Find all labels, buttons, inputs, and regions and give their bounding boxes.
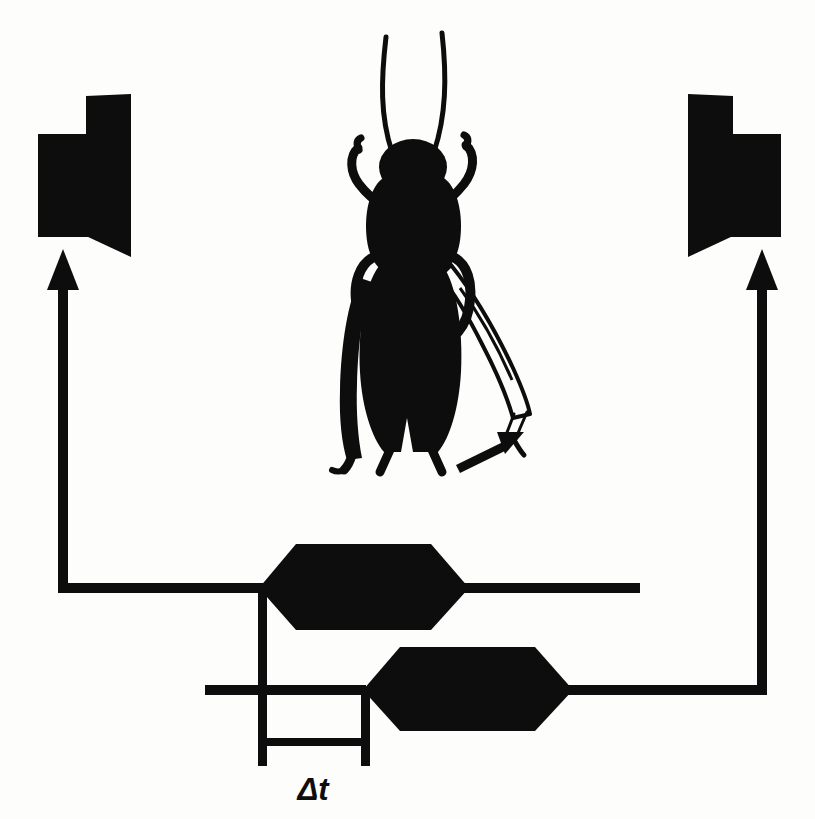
lower-sound-trace <box>205 647 767 731</box>
lower-trace-pulse <box>363 647 573 731</box>
cricket-hindleg-right-tarsus <box>514 440 524 455</box>
left-speaker-body <box>38 134 88 237</box>
right-signal-arrow <box>746 249 778 686</box>
cricket-silhouette <box>332 33 530 473</box>
upper-sound-trace <box>63 544 640 630</box>
cricket-hearing-figure: Δt <box>0 0 815 819</box>
cricket-antenna-left <box>382 37 392 152</box>
upper-trace-baseline-left <box>63 583 263 593</box>
tympanum-pointer-arrow <box>456 432 524 473</box>
cricket-foreleg-right-tip <box>464 135 468 147</box>
lower-trace-baseline-left <box>205 685 366 695</box>
delta-t-bar <box>258 738 370 746</box>
lower-trace-baseline-right <box>568 685 767 695</box>
left-arrow-head <box>47 249 79 290</box>
cricket-abdomen <box>360 266 462 452</box>
right-arrow-head <box>746 249 778 290</box>
cricket-foreleg-left-tip <box>357 138 361 150</box>
right-arrow-shaft <box>757 286 767 686</box>
figure-canvas: Δt <box>0 0 815 819</box>
right-speaker-cone <box>688 94 733 257</box>
cricket-hindleg-left-tarsus <box>332 470 344 472</box>
cricket-antenna-right <box>434 33 445 152</box>
cricket-pronotum <box>366 178 461 271</box>
tympanum-arrow-shaft <box>456 441 509 473</box>
right-speaker-body <box>731 134 781 237</box>
delta-t-dropline-right <box>361 690 370 766</box>
right-loudspeaker <box>688 94 781 257</box>
left-arrow-shaft <box>58 286 68 583</box>
left-signal-arrow <box>47 249 79 593</box>
left-speaker-cone <box>86 94 131 257</box>
left-loudspeaker <box>38 94 131 257</box>
upper-trace-baseline-right <box>463 583 640 593</box>
upper-trace-pulse <box>259 544 469 630</box>
delta-t-label: Δt <box>296 772 330 807</box>
